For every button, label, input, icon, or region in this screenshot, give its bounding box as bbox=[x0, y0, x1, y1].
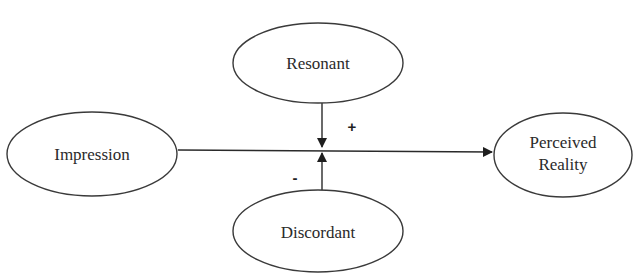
node-perceived-reality: Perceived Reality bbox=[494, 113, 632, 197]
node-discordant: Discordant bbox=[233, 190, 403, 272]
negative-sign-label: - bbox=[293, 169, 298, 186]
node-resonant-label: Resonant bbox=[286, 54, 350, 73]
node-perceived-reality-label-line2: Reality bbox=[538, 155, 588, 174]
moderation-diagram: Impression Resonant Discordant Perceived… bbox=[0, 0, 634, 276]
node-discordant-label: Discordant bbox=[281, 223, 356, 242]
edge-impression-to-perceived-reality bbox=[178, 150, 492, 152]
node-resonant: Resonant bbox=[233, 23, 403, 103]
node-impression: Impression bbox=[7, 112, 177, 196]
node-perceived-reality-label-line1: Perceived bbox=[529, 133, 597, 152]
node-impression-label: Impression bbox=[54, 145, 130, 164]
positive-sign-label: + bbox=[348, 118, 357, 135]
